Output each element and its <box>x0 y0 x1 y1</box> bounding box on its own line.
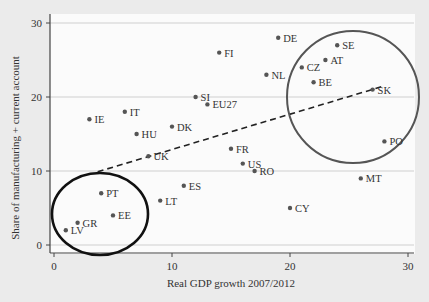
point-label: DK <box>177 122 193 133</box>
point-label: NL <box>271 70 285 81</box>
x-tick-label: 0 <box>51 260 57 272</box>
point-label: MT <box>366 173 382 184</box>
point-marker <box>87 117 91 121</box>
point-marker <box>382 139 386 143</box>
x-tick-label: 20 <box>285 260 297 272</box>
point-label: SE <box>342 40 354 51</box>
point-label: ES <box>189 181 201 192</box>
point-marker <box>182 184 186 188</box>
y-tick-label: 0 <box>37 239 43 251</box>
point-marker <box>276 36 280 40</box>
point-marker <box>217 50 221 54</box>
x-tick-label: 10 <box>167 260 179 272</box>
point-label: RO <box>260 166 275 177</box>
point-label: DE <box>283 33 297 44</box>
point-label: LT <box>165 196 177 207</box>
point-label: IT <box>130 107 140 118</box>
point-marker <box>300 65 304 69</box>
point-marker <box>158 198 162 202</box>
point-marker <box>311 80 315 84</box>
y-tick-label: 30 <box>31 17 43 29</box>
point-marker <box>146 154 150 158</box>
point-marker <box>241 161 245 165</box>
x-tick-label: 30 <box>403 260 415 272</box>
point-label: HU <box>142 129 158 140</box>
point-label: FI <box>224 48 234 59</box>
point-label: CZ <box>307 62 320 73</box>
point-marker <box>193 95 197 99</box>
point-marker <box>111 213 115 217</box>
point-label: EE <box>118 210 131 221</box>
point-marker <box>252 169 256 173</box>
y-tick-label: 10 <box>31 165 43 177</box>
x-axis-title: Real GDP growth 2007/2012 <box>167 277 295 289</box>
point-label: BE <box>319 77 332 88</box>
point-marker <box>323 58 327 62</box>
point-marker <box>123 110 127 114</box>
point-marker <box>335 43 339 47</box>
point-marker <box>99 191 103 195</box>
point-label: UK <box>153 151 169 162</box>
point-marker <box>264 73 268 77</box>
point-marker <box>205 102 209 106</box>
point-label: SK <box>378 85 392 96</box>
y-axis-title: Share of manufacturing + current account <box>9 56 21 240</box>
point-marker <box>64 228 68 232</box>
point-marker <box>134 132 138 136</box>
point-marker <box>288 206 292 210</box>
point-marker <box>170 124 174 128</box>
point-label: FR <box>236 144 249 155</box>
point-label: SI <box>201 92 211 103</box>
scatter-chart: 01020300102030 DESEFIATCZNLBESKSIEU27ITI… <box>0 0 429 302</box>
y-tick-label: 20 <box>31 91 43 103</box>
point-label: GR <box>83 218 98 229</box>
point-label: IE <box>94 114 104 125</box>
point-label: CY <box>295 203 310 214</box>
point-marker <box>370 87 374 91</box>
point-label: PO <box>389 136 403 147</box>
point-label: AT <box>330 55 343 66</box>
point-label: EU27 <box>212 99 237 110</box>
point-label: LV <box>71 225 84 236</box>
point-marker <box>229 147 233 151</box>
point-marker <box>359 176 363 180</box>
point-label: PT <box>106 188 119 199</box>
